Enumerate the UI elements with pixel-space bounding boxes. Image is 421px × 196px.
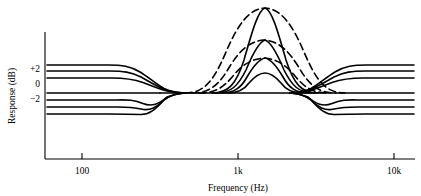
- mid-peak-wide-plus9: [185, 8, 345, 93]
- mid-peak-curve-family: [160, 8, 345, 93]
- x-tick-label-1k: 1k: [233, 166, 243, 176]
- low-shelf-curve-family: [47, 65, 185, 115]
- mid-peak-wide-plus6: [192, 40, 336, 93]
- high-shelf-curve-minus2: [290, 93, 414, 110]
- axes-group: [45, 32, 415, 159]
- x-tick-label-100: 100: [75, 166, 90, 176]
- high-shelf-curve-minus3: [290, 93, 414, 115]
- low-shelf-curve-minus3: [47, 93, 185, 115]
- y-tick-label-zero: 0: [35, 79, 40, 89]
- x-tick-label-10k: 10k: [387, 166, 402, 176]
- y-tick-label-plus2: +2: [30, 64, 40, 74]
- eq-response-chart: +2 0 −2 100 1k 10k Response (dB) Frequen…: [0, 0, 421, 196]
- low-shelf-curve-plus1: [47, 78, 185, 93]
- mid-peak-narrow-plus9: [212, 8, 318, 93]
- mid-peak-narrow-plus2: [228, 73, 302, 93]
- y-axis-title: Response (dB): [7, 68, 18, 124]
- y-tick-label-minus2: −2: [30, 94, 40, 104]
- x-axis-title: Frequency (Hz): [208, 183, 268, 194]
- high-shelf-curve-family: [290, 65, 414, 115]
- low-shelf-curve-minus2: [47, 93, 185, 110]
- chart-canvas: +2 0 −2 100 1k 10k Response (dB) Frequen…: [0, 0, 421, 196]
